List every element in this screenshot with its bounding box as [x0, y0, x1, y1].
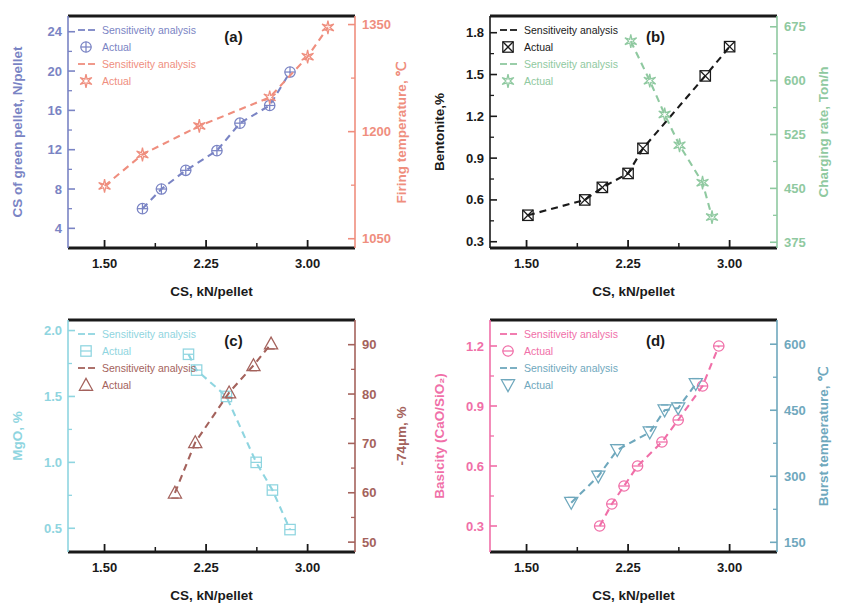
- trend-line: [571, 384, 696, 503]
- legend-label-sensitivity: Sensitiveity analysis: [524, 58, 618, 70]
- right-tick-label: 600: [784, 337, 806, 352]
- series-b-1: [625, 34, 718, 224]
- x-tick-label: 3.00: [295, 256, 320, 271]
- right-tick-label: 50: [362, 535, 376, 550]
- legend-label-actual: Actual: [102, 379, 131, 391]
- left-tick-label: 16: [48, 103, 62, 118]
- legend-label-actual: Actual: [524, 379, 553, 391]
- x-tick-label: 2.25: [193, 560, 218, 575]
- legend-label-sensitivity: Sensitiveity analysis: [524, 328, 618, 340]
- data-point-marker: [644, 74, 656, 88]
- x-axis-a: 1.502.253.00: [92, 240, 320, 271]
- left-tick-label: 12: [48, 142, 62, 157]
- x-axis-b: 1.502.253.00: [514, 240, 742, 271]
- data-point-marker: [659, 108, 671, 122]
- left-axis-a: 4812162024: [48, 24, 75, 236]
- x-tick-label: 2.25: [193, 256, 218, 271]
- left-tick-label: 0.9: [466, 151, 484, 166]
- right-tick-label: 375: [784, 235, 806, 250]
- left-tick-label: 8: [55, 182, 62, 197]
- panel-tag: (c): [224, 332, 242, 349]
- chart-panel-c: 0.51.01.52.050607080901.502.253.00MgO, %…: [0, 304, 422, 608]
- left-tick-label: 0.6: [466, 459, 484, 474]
- data-point-marker: [706, 210, 718, 224]
- left-tick-label: 0.3: [466, 519, 484, 534]
- series-c-0: [183, 349, 295, 535]
- data-point-marker: [80, 74, 92, 88]
- legend-d: Sensitiveity analysisActualSensitiveity …: [500, 328, 618, 392]
- right-tick-label: 80: [362, 387, 376, 402]
- right-tick-label: 450: [784, 181, 806, 196]
- left-axis-title: CS of green pellet, N/pellet: [10, 46, 25, 218]
- right-tick-label: 300: [784, 469, 806, 484]
- x-tick-label: 1.50: [92, 560, 117, 575]
- x-axis-c: 1.502.253.00: [92, 544, 320, 575]
- x-axis-title: CS, kN/pellet: [170, 588, 253, 603]
- legend-label-sensitivity: Sensitiveity analysis: [102, 24, 196, 36]
- left-tick-label: 4: [55, 221, 63, 236]
- data-point-marker: [501, 380, 514, 392]
- left-axis-d: 0.30.60.91.2: [466, 339, 497, 534]
- legend-label-actual: Actual: [524, 75, 553, 87]
- right-axis-title: Burst temperature, ℃: [816, 366, 831, 507]
- left-axis-title: Basicity (CaO/SiO₂): [432, 373, 447, 498]
- legend-c: Sensitiveity analysisActualSensitiveity …: [78, 328, 196, 391]
- chart-svg-c: 0.51.01.52.050607080901.502.253.00MgO, %…: [0, 304, 422, 608]
- trend-line: [188, 354, 290, 529]
- legend-label-sensitivity: Sensitiveity analysis: [102, 362, 196, 374]
- data-point-marker: [79, 378, 92, 390]
- legend-label-actual: Actual: [524, 345, 553, 357]
- left-axis-b: 0.30.60.91.21.51.8: [466, 25, 497, 249]
- data-point-marker: [264, 337, 277, 349]
- chart-panel-a: 48121620241050120013501.502.253.00CS of …: [0, 0, 422, 304]
- right-tick-label: 70: [362, 436, 376, 451]
- x-axis-title: CS, kN/pellet: [592, 284, 675, 299]
- right-tick-label: 90: [362, 337, 376, 352]
- right-tick-label: 1350: [362, 17, 391, 32]
- legend-a: Sensitiveity analysisActualSensitiveity …: [78, 24, 196, 88]
- series-d-1: [565, 379, 703, 510]
- right-axis-title: Charging rate, Ton/h: [816, 67, 831, 198]
- right-axis-title: -74µm, %: [394, 407, 409, 466]
- data-point-marker: [502, 74, 514, 88]
- x-tick-label: 2.25: [615, 560, 640, 575]
- left-tick-label: 0.3: [466, 234, 484, 249]
- left-tick-label: 1.5: [466, 67, 484, 82]
- legend-label-sensitivity: Sensitiveity analysis: [102, 58, 196, 70]
- left-axis-c: 0.51.01.52.0: [44, 323, 75, 536]
- left-tick-label: 2.0: [44, 323, 62, 338]
- right-axis-c: 5060708090: [348, 337, 376, 549]
- left-tick-label: 1.2: [466, 109, 484, 124]
- legend-label-sensitivity: Sensitiveity analysis: [524, 362, 618, 374]
- x-axis-title: CS, kN/pellet: [170, 284, 253, 299]
- x-tick-label: 1.50: [514, 256, 539, 271]
- left-tick-label: 1.0: [44, 455, 62, 470]
- chart-panel-b: 0.30.60.91.21.51.83754505256006751.502.2…: [422, 0, 844, 304]
- legend-label-actual: Actual: [524, 41, 553, 53]
- left-tick-label: 1.2: [466, 339, 484, 354]
- right-tick-label: 60: [362, 485, 376, 500]
- data-point-marker: [322, 21, 334, 35]
- data-point-marker: [643, 427, 656, 439]
- left-tick-label: 0.6: [466, 192, 484, 207]
- right-tick-label: 150: [784, 535, 806, 550]
- chart-svg-a: 48121620241050120013501.502.253.00CS of …: [0, 0, 422, 304]
- legend-b: Sensitiveity analysisActualSensitiveity …: [500, 24, 618, 88]
- right-tick-label: 600: [784, 73, 806, 88]
- right-tick-label: 675: [784, 19, 806, 34]
- trend-line: [528, 47, 730, 216]
- x-tick-label: 2.25: [615, 256, 640, 271]
- right-tick-label: 1050: [362, 231, 391, 246]
- panel-tag: (b): [646, 28, 665, 45]
- legend-label-actual: Actual: [102, 41, 131, 53]
- right-tick-label: 525: [784, 127, 806, 142]
- right-axis-b: 375450525600675: [770, 19, 806, 249]
- x-axis-title: CS, kN/pellet: [592, 588, 675, 603]
- x-tick-label: 3.00: [295, 560, 320, 575]
- x-tick-label: 3.00: [717, 560, 742, 575]
- x-tick-label: 1.50: [514, 560, 539, 575]
- right-tick-label: 1200: [362, 124, 391, 139]
- series-a-1: [99, 21, 334, 193]
- panel-tag: (d): [646, 332, 665, 349]
- trend-line: [142, 72, 290, 209]
